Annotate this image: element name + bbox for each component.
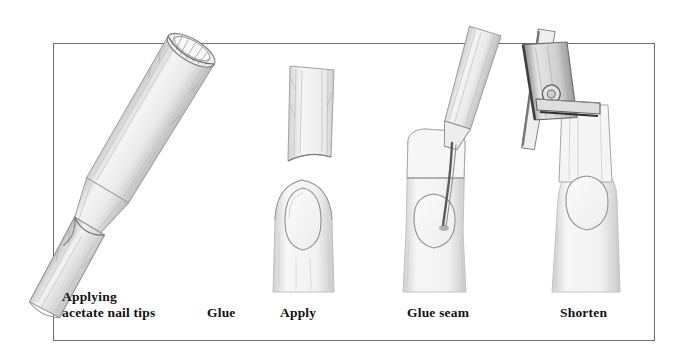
glue-applicator-cap [25, 217, 108, 319]
natural-nail-glue-seam [414, 194, 455, 248]
natural-nail-apply [285, 188, 321, 250]
natural-nail-shorten [566, 176, 608, 230]
panel-apply [273, 66, 334, 292]
illustration-canvas [0, 0, 686, 358]
panel-shorten [523, 40, 620, 292]
panel-glue-tube [12, 27, 220, 323]
nail-tip-instruction-figure: Applying acetate nail tips Glue Apply Gl… [0, 0, 686, 358]
glue-contact-smudge [439, 225, 449, 231]
clipper-pivot-hole [547, 90, 556, 99]
